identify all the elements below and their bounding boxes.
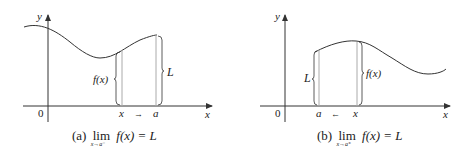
x-axis-label: x	[442, 108, 448, 120]
L-brace	[312, 51, 317, 105]
fx-brace	[114, 52, 120, 105]
caption-a: (a) limx→a⁻ f(x) = L	[72, 128, 157, 144]
curve	[24, 25, 157, 58]
a-point-label: a	[153, 107, 159, 119]
a-point-label: a	[316, 107, 322, 119]
panel-b: y x 0 a ← x L f(x)	[260, 10, 450, 122]
x-point-label: x	[352, 107, 358, 119]
lim-symbol: limx→a⁺	[338, 128, 355, 144]
L-label: L	[166, 65, 174, 79]
caption-expression: f(x) = L	[113, 128, 157, 143]
y-axis-label: y	[36, 10, 42, 22]
y-axis-label: y	[274, 10, 280, 22]
fx-brace	[359, 42, 364, 105]
lim-symbol: limx→a⁻	[93, 128, 110, 144]
arrow-left-icon: ←	[331, 109, 340, 119]
fx-label: f(x)	[366, 67, 382, 80]
lim-subscript: x→a⁻	[91, 140, 106, 147]
caption-prefix: (b)	[317, 128, 335, 143]
lim-subscript: x→a⁺	[336, 140, 351, 147]
arrow-right-icon: →	[134, 109, 143, 119]
origin-label: 0	[275, 107, 281, 119]
caption-expression: f(x) = L	[359, 128, 403, 143]
x-axis-label: x	[204, 108, 210, 120]
fx-label: f(x)	[93, 73, 109, 86]
origin-label: 0	[38, 107, 44, 119]
caption-prefix: (a)	[72, 128, 90, 143]
x-point-label: x	[118, 107, 124, 119]
L-label: L	[303, 71, 311, 85]
L-brace	[158, 36, 164, 105]
panel-a: y x 0 x → a f(x) L	[23, 10, 212, 122]
caption-b: (b) limx→a⁺ f(x) = L	[317, 128, 403, 144]
